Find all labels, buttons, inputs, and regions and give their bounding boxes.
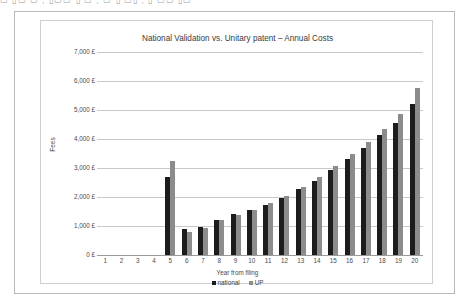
y-axis-tick-label: 5,000 £ bbox=[55, 107, 95, 113]
x-axis-tick-label: 10 bbox=[244, 257, 260, 265]
bar-UP-year-11 bbox=[268, 203, 273, 255]
bar-UP-year-10 bbox=[252, 210, 257, 255]
bar-UP-year-14 bbox=[317, 177, 322, 255]
x-axis-tick-label: 18 bbox=[374, 257, 390, 265]
legend-item-UP[interactable]: UP bbox=[249, 279, 264, 286]
bar-group bbox=[211, 52, 227, 255]
bar-group bbox=[227, 52, 243, 255]
y-axis-tick-label: 0 £ bbox=[55, 252, 95, 258]
legend-label: national bbox=[218, 279, 240, 286]
bar-group bbox=[146, 52, 162, 255]
x-axis-tick-labels: 1234567891011121314151617181920 bbox=[97, 257, 423, 265]
y-axis-tick-label: 7,000 £ bbox=[55, 49, 95, 55]
bar-group bbox=[390, 52, 406, 255]
bar-group bbox=[309, 52, 325, 255]
bar-group bbox=[374, 52, 390, 255]
bar-UP-year-6 bbox=[187, 232, 192, 255]
x-axis-tick-label: 14 bbox=[309, 257, 325, 265]
x-axis-tick-label: 13 bbox=[293, 257, 309, 265]
x-axis-tick-label: 15 bbox=[325, 257, 341, 265]
bar-UP-year-8 bbox=[219, 220, 224, 255]
bar-UP-year-17 bbox=[366, 142, 371, 255]
x-axis-tick-label: 6 bbox=[178, 257, 194, 265]
bar-UP-year-9 bbox=[236, 215, 241, 255]
x-axis-tick-label: 9 bbox=[227, 257, 243, 265]
x-axis-line bbox=[97, 255, 423, 256]
bar-UP-year-13 bbox=[301, 187, 306, 255]
bar-UP-year-15 bbox=[333, 166, 338, 255]
bar-group bbox=[407, 52, 423, 255]
bar-group bbox=[358, 52, 374, 255]
bar-UP-year-12 bbox=[284, 196, 289, 255]
bar-group bbox=[130, 52, 146, 255]
bar-group bbox=[195, 52, 211, 255]
x-axis-tick-label: 12 bbox=[276, 257, 292, 265]
x-axis-tick-label: 20 bbox=[407, 257, 423, 265]
document-frame: National Validation vs. Unitary patent –… bbox=[14, 11, 455, 294]
x-axis-tick-label: 17 bbox=[358, 257, 374, 265]
bar-UP-year-19 bbox=[398, 114, 403, 255]
bar-group bbox=[97, 52, 113, 255]
legend-item-national[interactable]: national bbox=[212, 279, 240, 286]
y-axis-tick-label: 6,000 £ bbox=[55, 78, 95, 84]
bar-UP-year-16 bbox=[350, 154, 355, 255]
x-axis-tick-label: 7 bbox=[195, 257, 211, 265]
bar-group bbox=[162, 52, 178, 255]
y-axis-tick-label: 4,000 £ bbox=[55, 136, 95, 142]
y-axis-tick-label: 2,000 £ bbox=[55, 194, 95, 200]
bar-group bbox=[325, 52, 341, 255]
x-axis-tick-label: 5 bbox=[162, 257, 178, 265]
y-axis-tick-labels: 0 £1,000 £2,000 £3,000 £4,000 £5,000 £6,… bbox=[55, 52, 95, 255]
chart-legend: nationalUP bbox=[41, 279, 434, 286]
x-axis-tick-label: 2 bbox=[113, 257, 129, 265]
x-axis-tick-label: 1 bbox=[97, 257, 113, 265]
bar-UP-year-7 bbox=[203, 228, 208, 255]
cut-off-text-strip: ▭ ▯▭ ▭ , ▯▭▭ ▯ ▭ , ▭ ▯ ▭▯ , ▯ ▭▭ ▯▭ bbox=[0, 0, 469, 9]
bar-group bbox=[260, 52, 276, 255]
x-axis-title: Year from filing bbox=[41, 269, 434, 276]
plot-area: Fees 0 £1,000 £2,000 £3,000 £4,000 £5,00… bbox=[41, 21, 434, 285]
bar-UP-year-20 bbox=[415, 88, 420, 255]
bar-group bbox=[293, 52, 309, 255]
x-axis-tick-label: 3 bbox=[130, 257, 146, 265]
bar-UP-year-18 bbox=[382, 129, 387, 255]
legend-swatch-icon bbox=[249, 281, 253, 285]
legend-label: UP bbox=[255, 279, 264, 286]
bars-layer bbox=[97, 52, 423, 255]
chart-container: National Validation vs. Unitary patent –… bbox=[40, 20, 433, 284]
bar-group bbox=[341, 52, 357, 255]
bar-group bbox=[113, 52, 129, 255]
bar-group bbox=[276, 52, 292, 255]
y-axis-tick-label: 1,000 £ bbox=[55, 223, 95, 229]
x-axis-tick-label: 4 bbox=[146, 257, 162, 265]
y-axis-tick-label: 3,000 £ bbox=[55, 165, 95, 171]
legend-swatch-icon bbox=[212, 281, 216, 285]
x-axis-tick-label: 11 bbox=[260, 257, 276, 265]
x-axis-tick-label: 19 bbox=[390, 257, 406, 265]
cut-off-text: ▭ ▯▭ ▭ , ▯▭▭ ▯ ▭ , ▭ ▯ ▭▯ , ▯ ▭▭ ▯▭ bbox=[0, 0, 469, 5]
bar-group bbox=[178, 52, 194, 255]
bar-UP-year-5 bbox=[170, 161, 175, 255]
x-axis-tick-label: 8 bbox=[211, 257, 227, 265]
bar-group bbox=[244, 52, 260, 255]
x-axis-tick-label: 16 bbox=[341, 257, 357, 265]
